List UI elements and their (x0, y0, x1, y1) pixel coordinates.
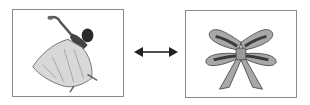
double-arrow-icon (134, 45, 178, 59)
dancer-image-frame (12, 9, 124, 97)
dancer-icon (13, 10, 123, 96)
bow-icon (186, 11, 296, 97)
bow-image-frame (185, 10, 297, 98)
